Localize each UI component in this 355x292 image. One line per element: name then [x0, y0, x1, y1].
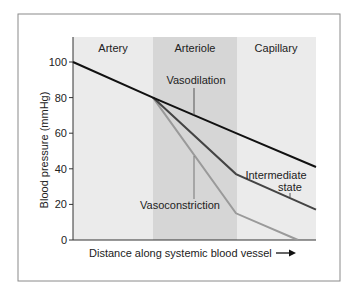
y-tick-label-80: 80: [55, 92, 67, 104]
blood-pressure-chart: Artery Arteriole Capillary 0 20 40 60 80…: [0, 0, 355, 292]
annotation-vasoconstriction: Vasoconstriction: [140, 199, 220, 211]
x-axis-label: Distance along systemic blood vessel: [89, 247, 272, 259]
annotation-intermediate-line1: Intermediate: [245, 169, 306, 181]
y-tick-label-0: 0: [61, 234, 67, 246]
annotation-intermediate-line2: state: [278, 181, 302, 193]
region-label-capillary: Capillary: [255, 42, 298, 54]
y-axis-label: Blood pressure (mmHg): [38, 92, 50, 209]
region-label-arteriole: Arteriole: [175, 42, 216, 54]
y-tick-label-100: 100: [49, 56, 67, 68]
y-tick-label-60: 60: [55, 127, 67, 139]
region-label-artery: Artery: [98, 42, 128, 54]
y-tick-label-20: 20: [55, 198, 67, 210]
annotation-vasodilation: Vasodilation: [166, 74, 225, 86]
y-tick-label-40: 40: [55, 163, 67, 175]
